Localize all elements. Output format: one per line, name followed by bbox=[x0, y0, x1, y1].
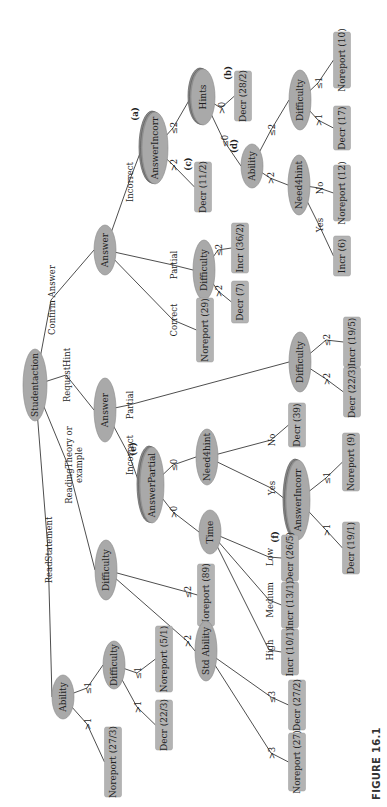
decision-node: Hints bbox=[188, 68, 215, 125]
node-tag-label: (e) bbox=[128, 442, 138, 455]
node-label: Decr (22/3) bbox=[159, 699, 169, 751]
edge-label: ≤1 bbox=[322, 472, 332, 485]
node-label: Incr (13/1) bbox=[285, 581, 295, 630]
edge-label: Yes bbox=[315, 218, 325, 233]
node-tag-label: (f) bbox=[270, 531, 280, 543]
decision-node: Difficulty bbox=[103, 641, 125, 689]
decision-node: Need4hint bbox=[288, 155, 310, 215]
node-label: Difficulty bbox=[295, 340, 305, 383]
edge-label: ≤2 bbox=[267, 124, 277, 137]
decision-node: Difficulty bbox=[95, 540, 117, 600]
node-label: AnswerIncorr bbox=[293, 468, 303, 532]
decision-node: Difficulty bbox=[193, 240, 215, 300]
edge-label: >1 bbox=[314, 114, 324, 127]
node-label: AnswerPartial bbox=[147, 453, 157, 518]
node-label: Answer bbox=[100, 392, 110, 428]
tree-edge bbox=[105, 250, 197, 330]
edge-label: >2 bbox=[169, 159, 179, 172]
edge-label: Yes bbox=[267, 481, 277, 496]
node-label: AnswerIncorr bbox=[150, 116, 160, 180]
leaf-node: Noreport (89) bbox=[198, 563, 215, 626]
figure-caption: FIGURE 16.1 bbox=[371, 727, 382, 800]
edge-label: Medium bbox=[265, 582, 275, 617]
node-label: Incr (36/2) bbox=[235, 224, 245, 273]
node-label: Answer bbox=[100, 232, 110, 268]
leaf-node: Decr (27/2) bbox=[289, 679, 306, 731]
leaf-node: Incr (10/1) bbox=[282, 628, 299, 677]
node-label: Noreport (12) bbox=[337, 161, 347, 224]
edge-label: Partial bbox=[125, 391, 135, 420]
edge-label: >3 bbox=[267, 747, 277, 760]
edge-label: >2 bbox=[183, 635, 193, 648]
decision-node: Std Ability bbox=[195, 621, 217, 681]
nodes-layer: StudentactionAnswerAnswerIncorr(a)HintsD… bbox=[23, 28, 361, 798]
leaf-node: Decr (11/2)(c) bbox=[183, 157, 212, 213]
decision-tree-diagram: Confirm AnswerRequestHintReadingTheory o… bbox=[0, 0, 387, 807]
node-label: Difficulty bbox=[295, 78, 305, 121]
edge-label: ≤2 bbox=[169, 122, 179, 135]
decision-node: AnswerPartial(e) bbox=[128, 442, 164, 523]
edge-label: Incorrect bbox=[125, 161, 135, 202]
node-label: Decr (27/2) bbox=[292, 679, 302, 731]
node-label: Incr (10/1) bbox=[285, 628, 295, 677]
leaf-node: Decr (17) bbox=[334, 106, 351, 150]
edge-label: High bbox=[265, 639, 275, 661]
node-tag-label: (c) bbox=[183, 157, 193, 170]
edge-label: ≤0 bbox=[169, 459, 179, 472]
tree-edge bbox=[206, 651, 289, 762]
edge-label: Confirm Answer bbox=[47, 264, 57, 335]
decision-node: AnswerIncorr bbox=[283, 459, 310, 540]
leaf-node: Incr (13/1) bbox=[282, 581, 299, 630]
node-label: Incr (19/5) bbox=[347, 318, 357, 367]
edge-label: ≤1 bbox=[314, 77, 324, 90]
node-label: Need4hint bbox=[202, 433, 212, 481]
node-tag-label: (b) bbox=[223, 66, 233, 80]
decision-node: Ability(d) bbox=[229, 139, 263, 188]
leaf-node: Decr (39) bbox=[289, 403, 306, 447]
decision-node: Answer bbox=[94, 225, 116, 275]
edge-label: >1 bbox=[133, 701, 143, 714]
leaf-node: Noreport (5/1) bbox=[156, 626, 173, 692]
leaf-node: Noreport (10) bbox=[334, 28, 351, 91]
leaf-node: Decr (22/3) bbox=[344, 366, 361, 418]
decision-node: Difficulty bbox=[289, 70, 311, 130]
node-label: Difficulty bbox=[199, 248, 209, 291]
node-label: Noreport (89) bbox=[201, 563, 211, 626]
node-label: Ability bbox=[58, 681, 68, 713]
edge-label: No bbox=[267, 434, 277, 447]
edge-label: Partial bbox=[169, 251, 179, 280]
edge-label: ≤2 bbox=[183, 586, 193, 599]
node-label: Incr (6) bbox=[337, 239, 347, 273]
decision-node: Difficulty bbox=[289, 332, 311, 392]
node-label: Difficulty bbox=[109, 643, 119, 686]
edge-label: >2 bbox=[214, 285, 224, 298]
decision-node: Answer bbox=[94, 378, 116, 442]
tree-edge bbox=[105, 250, 193, 270]
edge-label: >1 bbox=[83, 718, 93, 731]
node-label: Noreport (27) bbox=[292, 730, 302, 793]
node-label: Decr (11/2) bbox=[198, 161, 208, 213]
edge-label: >0 bbox=[217, 102, 227, 115]
leaf-node: Incr (19/5) bbox=[344, 317, 361, 367]
node-label: Difficulty bbox=[101, 548, 111, 591]
leaf-node: Noreport (29) bbox=[197, 298, 214, 362]
edge-label: ≤1 bbox=[133, 667, 143, 680]
edge-label: Correct bbox=[169, 303, 179, 337]
decision-node: Studentaction bbox=[23, 349, 47, 421]
edge-label: ≤2 bbox=[322, 334, 332, 347]
node-label: Noreport (27/3) bbox=[108, 726, 118, 798]
node-label: Decr (26/5) bbox=[285, 532, 295, 584]
decision-node: Ability bbox=[52, 675, 74, 719]
decision-node: Need4hint bbox=[196, 429, 218, 485]
leaf-node: Incr (36/2) bbox=[232, 223, 249, 273]
edge-label: ≤3 bbox=[267, 691, 277, 704]
leaf-node: Decr (7) bbox=[232, 281, 249, 323]
node-label: Decr (7) bbox=[235, 283, 245, 321]
leaf-node: Noreport (27) bbox=[289, 730, 306, 793]
edge-label: ReadStatement bbox=[44, 516, 54, 583]
node-label: Decr (28/2) bbox=[238, 70, 248, 122]
decision-node: Time bbox=[199, 510, 221, 554]
leaf-node: Decr (22/3) bbox=[156, 699, 173, 751]
edge-label: No bbox=[315, 182, 325, 195]
node-label: Studentaction bbox=[30, 353, 40, 417]
